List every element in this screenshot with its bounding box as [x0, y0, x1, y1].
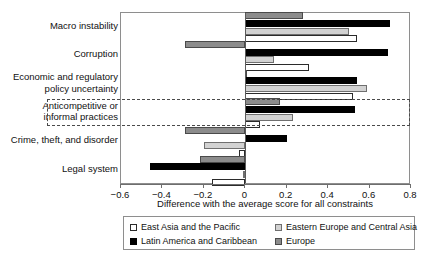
x-axis-tick [327, 184, 328, 188]
bar [245, 85, 367, 92]
category-label-line: policy uncertainty [0, 83, 118, 95]
bar [245, 64, 309, 71]
bars-layer [121, 13, 409, 183]
x-axis-tick [161, 184, 162, 188]
chart-figure: Macro instabilityCorruptionEconomic and … [0, 0, 438, 258]
legend-item: Latin America and Caribbean [130, 236, 257, 246]
bar [245, 114, 293, 121]
bar [245, 121, 260, 128]
category-label: Corruption [0, 48, 118, 60]
bar [245, 135, 286, 142]
category-label-line: Legal system [0, 163, 118, 175]
x-axis-tick [120, 184, 121, 188]
category-label-line: Corruption [0, 48, 118, 60]
legend-label: Latin America and Caribbean [141, 236, 257, 246]
legend-swatch-icon [130, 224, 137, 231]
x-axis-tick [203, 184, 204, 188]
x-axis-tick [369, 184, 370, 188]
x-axis-title: Difference with the average score for al… [120, 198, 410, 209]
bar [245, 35, 357, 42]
bar [245, 56, 274, 63]
category-label-line: Macro instability [0, 20, 118, 32]
plot-area [120, 12, 410, 184]
category-label-line: Crime, theft, and disorder [0, 134, 118, 146]
legend-label: Eastern Europe and Central Asia [286, 222, 417, 232]
bar [245, 106, 355, 113]
x-axis-tick [244, 184, 245, 188]
bar [245, 77, 357, 84]
category-label-line: Anticompetitive or [0, 100, 118, 112]
legend-swatch-icon [130, 238, 137, 245]
bar [245, 98, 280, 105]
legend-label: East Asia and the Pacific [141, 222, 240, 232]
legend-label: Europe [286, 236, 315, 246]
category-label: Legal system [0, 163, 118, 175]
legend-swatch-icon [275, 224, 282, 231]
bar [185, 127, 245, 134]
category-label: Economic and regulatorypolicy uncertaint… [0, 71, 118, 94]
bar [245, 28, 349, 35]
category-label: Anticompetitive orinformal practices [0, 100, 118, 123]
legend: East Asia and the PacificEastern Europe … [123, 216, 415, 250]
legend-item: Europe [275, 236, 315, 246]
legend-item: East Asia and the Pacific [130, 222, 240, 232]
x-axis-tick [286, 184, 287, 188]
x-axis-line [120, 184, 410, 185]
bar [204, 142, 245, 149]
legend-item: Eastern Europe and Central Asia [275, 222, 417, 232]
bar [245, 20, 390, 27]
category-label-line: informal practices [0, 111, 118, 123]
bar [150, 163, 245, 170]
bar [185, 41, 245, 48]
bar [245, 49, 388, 56]
zero-reference-line [245, 13, 246, 183]
bar [200, 156, 246, 163]
legend-swatch-icon [275, 238, 282, 245]
x-axis-tick [410, 184, 411, 188]
bar [245, 12, 303, 19]
category-axis-labels: Macro instabilityCorruptionEconomic and … [0, 12, 118, 184]
category-label: Macro instability [0, 20, 118, 32]
category-label-line: Economic and regulatory [0, 71, 118, 83]
category-label: Crime, theft, and disorder [0, 134, 118, 146]
